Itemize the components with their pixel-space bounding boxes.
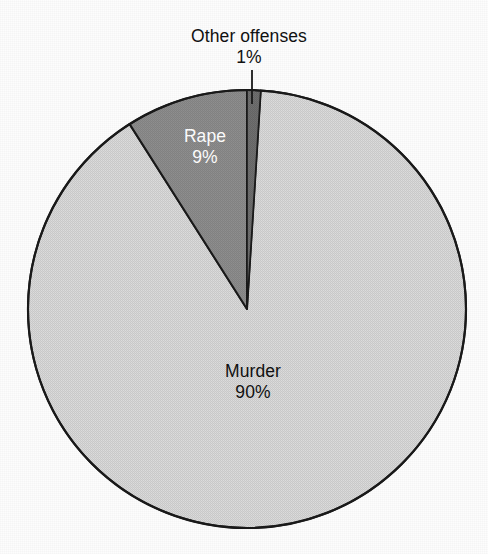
slice-label-murder: Murder 90%: [188, 361, 318, 402]
slice-label-murder-name: Murder: [188, 361, 318, 382]
slice-label-other-offenses-name: Other offenses: [154, 26, 344, 47]
slice-label-rape-value: 9%: [140, 147, 270, 168]
slice-label-rape-name: Rape: [140, 126, 270, 147]
slice-label-other-offenses-value: 1%: [154, 47, 344, 68]
slice-label-other-offenses: Other offenses 1%: [154, 26, 344, 67]
pie-chart-canvas: [0, 0, 488, 554]
pie-chart-figure: Other offenses 1% Rape 9% Murder 90%: [0, 0, 488, 554]
slice-label-rape: Rape 9%: [140, 126, 270, 167]
slice-label-murder-value: 90%: [188, 382, 318, 403]
